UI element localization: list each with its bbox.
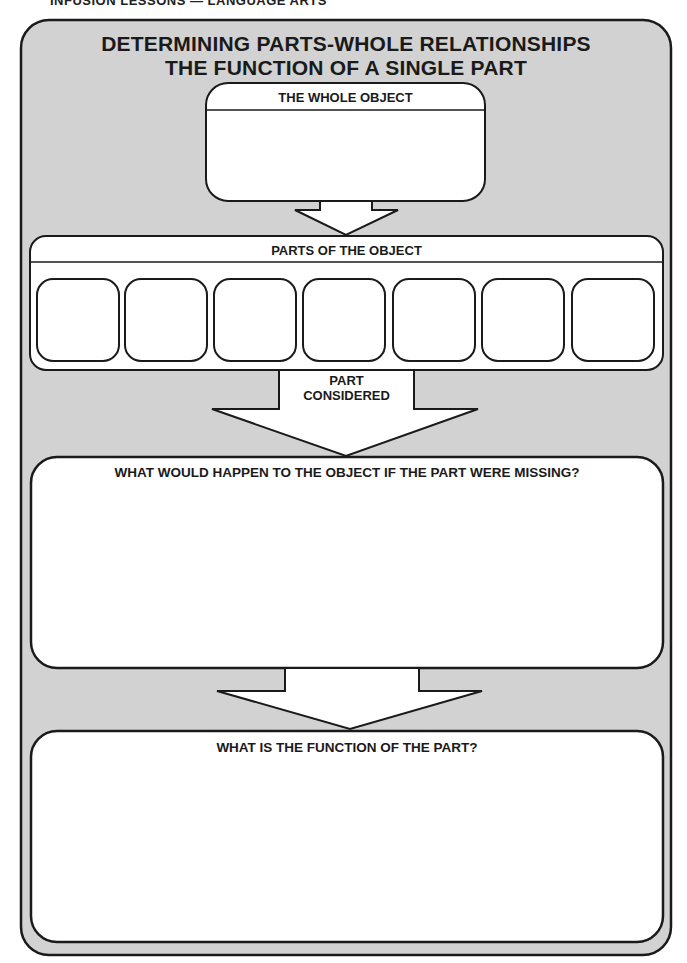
part-slot-3[interactable] [216,281,294,359]
parts-label: PARTS OF THE OBJECT [30,243,663,258]
part-considered-label-line2: CONSIDERED [279,388,414,403]
whole-object-label: THE WHOLE OBJECT [206,90,485,105]
part-slot-4[interactable] [305,281,383,359]
function-input[interactable] [40,762,654,932]
function-label: WHAT IS THE FUNCTION OF THE PART? [31,740,663,755]
part-slot-1[interactable] [39,281,117,359]
page-subtitle: THE FUNCTION OF A SINGLE PART [21,56,671,80]
part-slot-5[interactable] [395,281,473,359]
part-slot-6[interactable] [484,281,562,359]
part-considered-input[interactable] [290,408,403,428]
missing-input[interactable] [40,488,654,658]
part-slot-7[interactable] [574,281,652,359]
page-title: DETERMINING PARTS-WHOLE RELATIONSHIPS [21,32,671,56]
missing-label: WHAT WOULD HAPPEN TO THE OBJECT IF THE P… [31,465,663,480]
part-slot-2[interactable] [127,281,205,359]
whole-object-input[interactable] [212,114,479,196]
part-considered-label-line1: PART [279,373,414,388]
